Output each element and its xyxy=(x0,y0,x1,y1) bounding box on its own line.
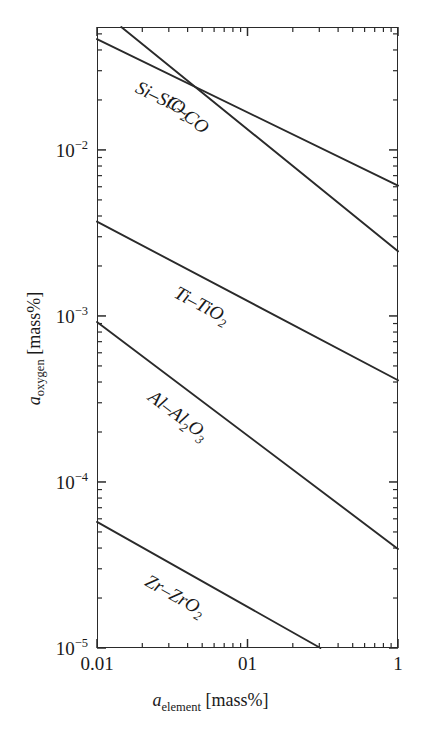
x-tick-label: 01 xyxy=(203,654,293,673)
x-tick-label: 1 xyxy=(353,654,421,673)
y-tick-label: 10−2 xyxy=(56,140,88,159)
series-c-co xyxy=(121,27,398,251)
data-lines xyxy=(97,27,398,648)
series-si-sio2 xyxy=(97,39,398,185)
y-tick-label: 10−4 xyxy=(56,472,88,491)
axis-ticks xyxy=(97,27,398,648)
y-tick-label: 10−3 xyxy=(56,306,88,325)
x-tick-label: 0.01 xyxy=(52,654,142,673)
x-axis-title: aelement [mass%] xyxy=(0,690,421,711)
figure: 10−2 10−3 10−4 10−5 0.01 01 1 aelement [… xyxy=(0,0,421,743)
chart-canvas xyxy=(0,0,421,743)
series-zr-zro2 xyxy=(97,522,320,648)
y-axis-title: aoxygen [mass%] xyxy=(24,229,45,469)
